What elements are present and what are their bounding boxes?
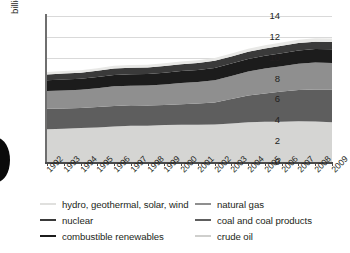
- legend-item-label: natural gas: [217, 199, 264, 210]
- legend-item-label: crude oil: [217, 231, 253, 242]
- y-tick-label: 8: [262, 74, 280, 84]
- legend-column-left: hydro, geothermal, solar, windnuclearcom…: [40, 196, 188, 244]
- legend-item[interactable]: natural gas: [195, 196, 312, 212]
- legend-swatch-icon: [40, 219, 56, 221]
- legend-swatch-icon: [40, 235, 56, 237]
- y-tick-label: 6: [262, 94, 280, 104]
- legend-item[interactable]: combustible renewables: [40, 228, 188, 244]
- legend-item[interactable]: coal and coal products: [195, 212, 312, 228]
- x-tick-label: 2009: [330, 154, 350, 174]
- legend-item-label: hydro, geothermal, solar, wind: [62, 199, 188, 210]
- legend-item[interactable]: crude oil: [195, 228, 312, 244]
- legend-item[interactable]: hydro, geothermal, solar, wind: [40, 196, 188, 212]
- plot-area: 02468101214 1992199319941995199619971998…: [47, 16, 332, 162]
- y-axis-line: [45, 14, 47, 164]
- y-tick-label: 14: [262, 11, 280, 21]
- y-tick-label: 4: [262, 115, 280, 125]
- y-axis-title: billion tonnes of oil equivalent: [9, 0, 23, 14]
- legend-swatch-icon: [40, 203, 56, 205]
- y-tick-label: 2: [262, 136, 280, 146]
- legend-item-label: coal and coal products: [217, 215, 312, 226]
- chart-legend: hydro, geothermal, solar, windnuclearcom…: [40, 196, 340, 244]
- legend-item-label: combustible renewables: [62, 231, 164, 242]
- y-axis-title-container: billion tonnes of oil equivalent: [0, 0, 20, 160]
- legend-item[interactable]: nuclear: [40, 212, 188, 228]
- legend-swatch-icon: [195, 203, 211, 205]
- stacked-area-series: [47, 16, 332, 162]
- legend-column-right: natural gascoal and coal productscrude o…: [195, 196, 312, 244]
- y-tick-label: 12: [262, 32, 280, 42]
- legend-item-label: nuclear: [62, 215, 93, 226]
- legend-swatch-icon: [195, 235, 211, 237]
- legend-swatch-icon: [195, 219, 211, 221]
- y-tick-label: 10: [262, 53, 280, 63]
